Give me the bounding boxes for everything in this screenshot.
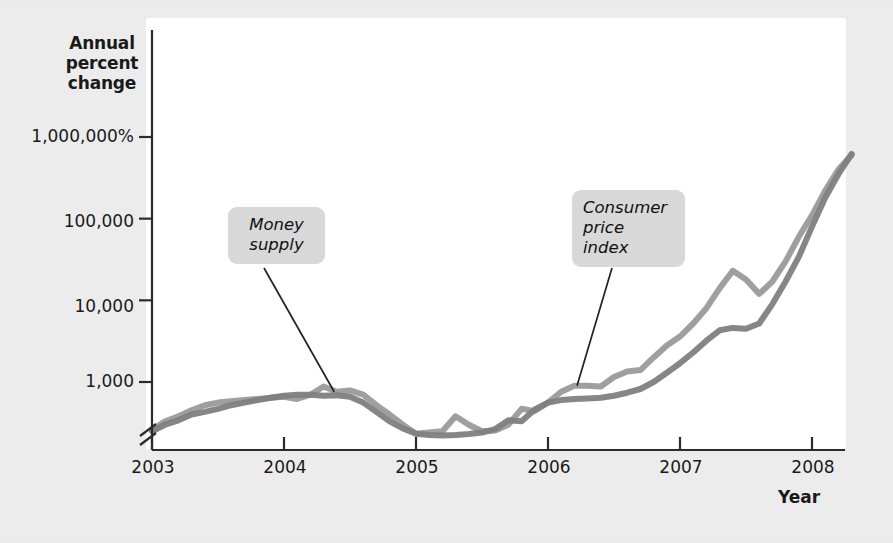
x-tick-label-2005: 2005 <box>377 457 457 477</box>
y-axis-title-line-1: Annual <box>60 33 144 53</box>
y-axis-title-line-2: percent <box>60 53 144 73</box>
y-axis-title-line-3: change <box>60 73 144 93</box>
money-supply-callout-line-1: Money <box>239 215 314 235</box>
cpi-callout-line-1: Consumer <box>583 198 674 218</box>
cpi-callout-line-3: index <box>583 238 674 258</box>
x-tick-label-2003: 2003 <box>113 457 193 477</box>
y-tick-label-1000000: 1,000,000% <box>18 126 134 146</box>
money-supply-callout-line-2: supply <box>239 235 314 255</box>
leader-lines-layer <box>264 268 612 392</box>
series-line-money-supply <box>152 155 852 434</box>
x-tick-label-2006: 2006 <box>509 457 589 477</box>
x-tick-label-2007: 2007 <box>641 457 721 477</box>
consumer-price-index-callout: Consumer price index <box>572 190 685 267</box>
y-tick-label-1000: 1,000 <box>18 371 134 391</box>
y-tick-label-10000: 10,000 <box>18 296 134 316</box>
y-axis-title: Annual percent change <box>60 33 144 93</box>
cpi-callout-line-2: price <box>583 218 674 238</box>
axis-break-mark <box>140 424 156 445</box>
consumer-price-index-leader-line <box>577 268 612 386</box>
x-axis-title: Year <box>778 487 820 507</box>
money-supply-callout: Money supply <box>228 207 325 264</box>
chart-figure: Annual percent change Year 1,000,000% 10… <box>0 0 893 543</box>
x-tick-label-2008: 2008 <box>773 457 853 477</box>
x-tick-label-2004: 2004 <box>245 457 325 477</box>
money-supply-leader-line <box>264 268 334 392</box>
series-layer <box>152 154 852 435</box>
series-line-consumer-price-index <box>152 154 852 435</box>
y-tick-label-100000: 100,000 <box>18 211 134 231</box>
